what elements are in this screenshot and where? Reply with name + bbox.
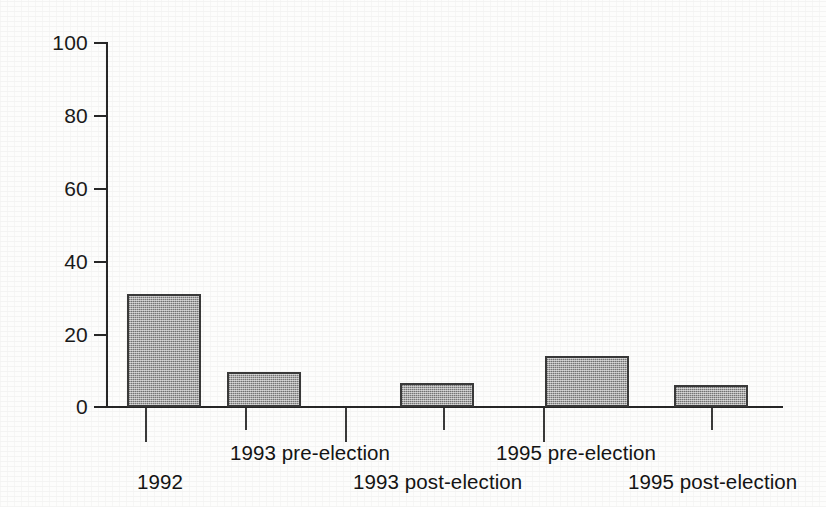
y-tick-mark [94, 42, 106, 44]
x-tick-extra [711, 408, 713, 430]
y-tick-label: 40 [28, 251, 88, 272]
y-tick-mark [94, 406, 106, 408]
y-tick-mark [94, 115, 106, 117]
y-tick-label: 0 [28, 396, 88, 417]
y-tick-label: 80 [28, 105, 88, 126]
y-tick-label: 100 [28, 32, 88, 53]
bar-1993-pre-election [227, 372, 301, 407]
scan-texture-overlay [0, 0, 826, 507]
bar-1995-post-election [674, 385, 748, 407]
y-tick-mark [94, 261, 106, 263]
y-tick-mark [94, 334, 106, 336]
x-tick-1993-pre-election [245, 408, 247, 430]
bar-1995-pre-election [545, 356, 629, 407]
x-tick-1992 [145, 408, 147, 442]
x-axis-label-1993-post-election: 1993 post-election [353, 472, 522, 493]
x-axis-label-1995-post-election: 1995 post-election [628, 472, 797, 493]
y-tick-mark [94, 188, 106, 190]
y-tick-label: 60 [28, 178, 88, 199]
bar-chart-figure: 100 80 60 40 20 0 1993 pre-election 1995… [0, 0, 826, 507]
x-tick-1995-post-election [543, 408, 545, 442]
bar-1992 [127, 294, 201, 407]
y-axis-line [106, 42, 108, 408]
y-tick-label: 20 [28, 324, 88, 345]
x-axis-label-1995-pre-election: 1995 pre-election [496, 443, 656, 464]
x-tick-1993-post-election [345, 408, 347, 442]
x-axis-label-1993-pre-election: 1993 pre-election [230, 443, 390, 464]
bar-1993-post-election [400, 383, 474, 407]
x-axis-label-1992: 1992 [137, 472, 183, 493]
x-tick-1995-pre-election [443, 408, 445, 430]
